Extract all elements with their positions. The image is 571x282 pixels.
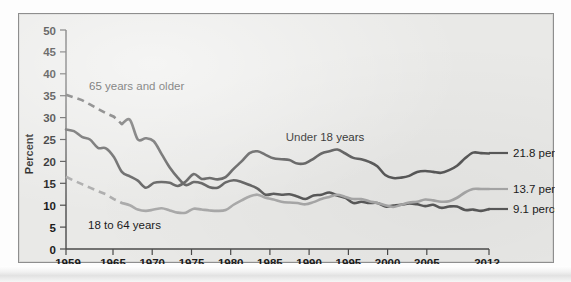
x-tick-label: 1985	[257, 257, 283, 264]
x-tick-label: 1975	[179, 257, 205, 264]
x-tick-label: 2000	[375, 257, 401, 264]
y-tick-label: 5	[50, 222, 57, 234]
x-ticks	[66, 249, 489, 255]
y-tick-label: 30	[43, 112, 56, 124]
x-tick-label: 1959	[55, 257, 81, 264]
y-tick-label: 10	[43, 200, 56, 212]
series-line-65-and-older-dashed	[66, 95, 122, 124]
page-shadow	[0, 266, 571, 282]
y-tick-label: 20	[43, 156, 56, 168]
series-line-18-to-64-dashed	[66, 177, 122, 203]
series-label-65-and-older: 65 years and older	[89, 80, 184, 92]
x-tick-label: 1995	[336, 257, 362, 264]
x-tick-label: 1965	[100, 257, 126, 264]
x-tick-labels: 1959 1965 1970 1975 1980 1985 1990 1995 …	[55, 257, 500, 264]
y-tick-label: 45	[43, 46, 56, 58]
x-tick-label: 1990	[296, 257, 322, 264]
series-label-under-18: Under 18 years	[286, 131, 365, 143]
series-line-18-to-64	[122, 189, 489, 213]
page-background: Percent 50 45 40 3	[0, 0, 571, 282]
x-tick-label: 1970	[139, 257, 165, 264]
end-label-under-18: 21.8 percent	[513, 147, 555, 159]
chart-figure: Percent 50 45 40 3	[18, 13, 554, 263]
end-label-18-to-64: 13.7 percent	[513, 183, 555, 195]
x-tick-label: 2005	[414, 257, 440, 264]
x-tick-label: 2012	[474, 257, 500, 264]
y-tick-label: 25	[43, 134, 56, 146]
series-label-18-to-64: 18 to 64 years	[88, 219, 161, 231]
y-tick-label: 40	[43, 68, 56, 80]
x-tick-label: 1980	[218, 257, 244, 264]
end-label-65-and-older: 9.1 percent	[513, 203, 555, 215]
y-tick-label: 0	[50, 244, 56, 256]
series-line-under-18	[66, 129, 489, 187]
y-tick-label: 35	[43, 90, 56, 102]
y-axis-title: Percent	[23, 133, 35, 174]
y-tick-label: 50	[43, 25, 56, 37]
y-tick-labels: 50 45 40 35 30 25 20 15 10 5 0	[43, 25, 56, 256]
y-tick-label: 15	[43, 178, 56, 190]
line-chart: Percent 50 45 40 3	[19, 14, 555, 264]
y-ticks	[60, 30, 66, 249]
